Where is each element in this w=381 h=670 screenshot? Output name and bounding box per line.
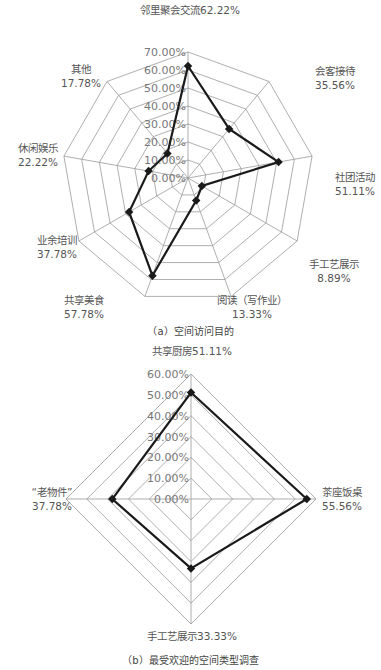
category-value: 13.33%: [232, 308, 272, 320]
category-value: 17.78%: [61, 77, 101, 89]
category-label: 业余培训: [37, 234, 77, 246]
figure: 0.00%10.00%20.00%30.00%40.00%50.00%60.00…: [0, 0, 381, 670]
category-value: 51.11%: [335, 185, 375, 197]
radar-chart-b: 0.00%10.00%20.00%30.00%40.00%50.00%60.00…: [0, 340, 381, 650]
tick-label: 60.00%: [147, 368, 189, 381]
caption-b: （b）最受欢迎的空间类型调查: [0, 652, 381, 667]
category-label: 手工艺展示: [309, 258, 359, 270]
category-label: 休闲娱乐: [18, 142, 59, 154]
axis-spoke: [188, 178, 231, 296]
category-label: 茶座饭桌: [322, 486, 363, 498]
category-value: 57.78%: [64, 308, 104, 320]
grid: [66, 374, 316, 624]
tick-label: 40.00%: [147, 410, 189, 423]
tick-label: 50.00%: [144, 82, 186, 95]
axis-spoke: [79, 178, 188, 241]
radar-chart-a: 0.00%10.00%20.00%30.00%40.00%50.00%60.00…: [0, 0, 381, 320]
category-label: 共享厨房51.11%: [152, 345, 232, 357]
tick-label: 70.00%: [144, 46, 186, 59]
category-label: 手工艺展示33.33%: [147, 630, 237, 642]
tick-labels: 0.00%10.00%20.00%30.00%40.00%50.00%60.00…: [144, 46, 186, 185]
category-value: 37.78%: [32, 500, 72, 512]
caption-a: （a）空间访问目的: [0, 323, 381, 338]
category-value: 35.56%: [315, 79, 355, 91]
grid: [64, 52, 312, 296]
category-labels: 邻里聚会交流62.22%会客接待35.56%社团活动51.11%手工艺展示8.8…: [18, 4, 375, 320]
tick-label: 60.00%: [144, 64, 186, 77]
category-label: 其他: [71, 63, 92, 75]
category-value: 55.56%: [322, 500, 362, 512]
tick-label: 0.00%: [151, 172, 186, 185]
category-label: 共享美食: [64, 294, 105, 306]
tick-label: 30.00%: [144, 118, 186, 131]
axis-spoke: [188, 156, 312, 178]
category-label: 阅读（写作业）: [217, 294, 287, 306]
category-value: 37.78%: [37, 248, 77, 260]
data-marker: [198, 182, 206, 190]
data-marker: [125, 208, 133, 216]
tick-label: 20.00%: [144, 136, 186, 149]
tick-label: 50.00%: [147, 389, 189, 402]
category-value: 22.22%: [18, 156, 58, 168]
category-label: 社团活动: [335, 171, 375, 183]
tick-labels: 0.00%10.00%20.00%30.00%40.00%50.00%60.00…: [147, 368, 189, 506]
tick-label: 30.00%: [147, 431, 189, 444]
category-value: 8.89%: [317, 272, 350, 284]
tick-label: 20.00%: [147, 451, 189, 464]
tick-label: 0.00%: [154, 493, 189, 506]
category-label: 邻里聚会交流62.22%: [140, 4, 240, 16]
category-label: “老物件”: [32, 486, 73, 498]
category-label: 会客接待: [315, 65, 356, 77]
tick-label: 10.00%: [147, 472, 189, 485]
series-line: [112, 393, 306, 569]
